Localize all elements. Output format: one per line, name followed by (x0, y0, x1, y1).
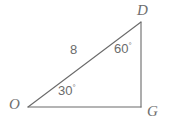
vertex-label-G: G (147, 104, 158, 119)
angle-D-value: 60 (114, 41, 128, 56)
vertex-label-D: D (137, 3, 148, 18)
triangle-diagram: D O G 8 30° 60° (0, 0, 174, 127)
angle-label-D: 60° (114, 42, 132, 55)
degree-symbol-icon: ° (72, 83, 75, 92)
degree-symbol-icon: ° (128, 41, 131, 50)
angle-O-value: 30 (58, 83, 72, 98)
side-length-label-OD: 8 (70, 43, 77, 56)
angle-label-O: 30° (58, 84, 76, 97)
side-OD-line (28, 22, 141, 107)
vertex-label-O: O (9, 97, 20, 112)
